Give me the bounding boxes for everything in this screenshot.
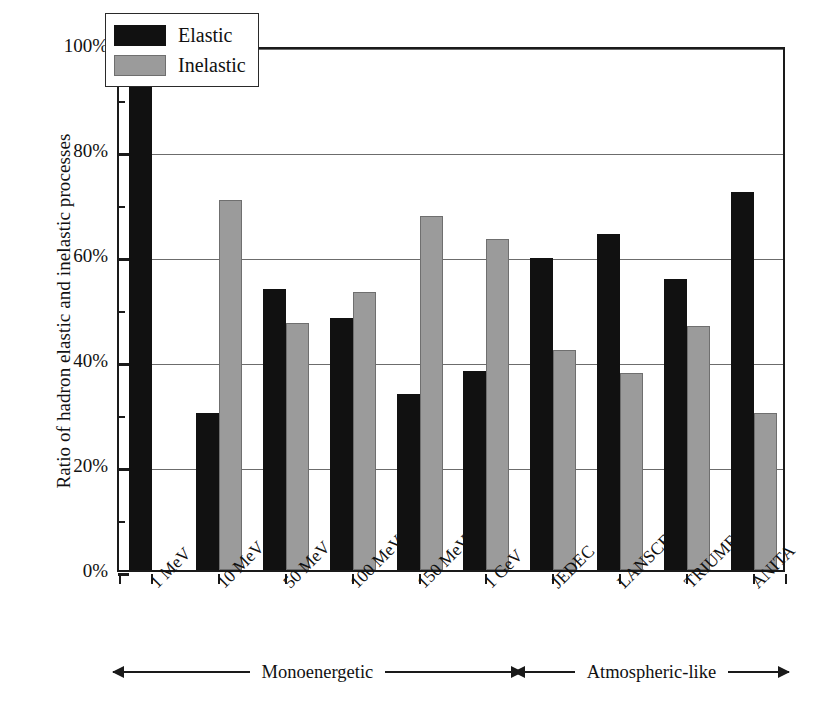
bar-inelastic-jedec xyxy=(553,350,576,571)
bar-elastic-10-mev xyxy=(196,413,219,571)
bar-inelastic-100-mev xyxy=(353,292,376,570)
bar-elastic-lansce xyxy=(597,234,620,570)
plot-area xyxy=(117,47,785,572)
y-axis-minor-tick xyxy=(118,416,125,418)
y-axis-tick-label: 100% xyxy=(30,35,108,57)
x-axis-tick xyxy=(785,574,787,584)
legend-label-inelastic: Inelastic xyxy=(178,55,246,75)
bar-inelastic-150-mev xyxy=(420,216,443,570)
x-axis-tick xyxy=(119,574,121,584)
bar-elastic-jedec xyxy=(530,258,553,570)
y-axis-tick xyxy=(118,468,129,471)
y-axis-tick xyxy=(118,153,129,156)
bar-elastic-1-mev xyxy=(129,45,152,570)
y-axis-minor-tick xyxy=(118,101,125,103)
arrow-left-icon xyxy=(113,671,250,673)
legend-item-elastic: Elastic xyxy=(114,20,246,50)
arrow-right-icon xyxy=(385,671,522,673)
bar-inelastic-1-gev xyxy=(486,239,509,570)
bar-elastic-triumf xyxy=(664,279,687,570)
group-annotation-label: Monoenergetic xyxy=(250,662,386,683)
group-annotation-label: Atmospheric-like xyxy=(575,662,728,683)
group-annotation-atmospheric-like: Atmospheric-like xyxy=(514,660,789,684)
y-axis-tick xyxy=(118,258,129,261)
y-axis-minor-tick xyxy=(118,521,125,523)
bar-inelastic-triumf xyxy=(687,326,710,570)
black-square-icon xyxy=(114,25,166,46)
bar-elastic-50-mev xyxy=(263,289,286,570)
plot-inner xyxy=(119,49,783,570)
y-axis-tick xyxy=(118,363,129,366)
bar-inelastic-lansce xyxy=(620,373,643,570)
chart-legend: Elastic Inelastic xyxy=(105,13,259,87)
legend-label-elastic: Elastic xyxy=(178,25,232,45)
arrow-left-icon xyxy=(514,671,575,673)
bar-elastic-100-mev xyxy=(330,318,353,570)
bar-inelastic-anita xyxy=(754,413,777,571)
legend-item-inelastic: Inelastic xyxy=(114,50,246,80)
arrow-right-icon xyxy=(728,671,789,673)
group-annotation-monoenergetic: Monoenergetic xyxy=(113,660,522,684)
gridline xyxy=(119,154,783,155)
y-axis-tick-label: 0% xyxy=(30,560,108,582)
y-axis-title: Ratio of hadron elastic and inelastic pr… xyxy=(53,51,75,571)
y-axis-tick-label: 40% xyxy=(30,350,108,372)
bar-chart-figure: Ratio of hadron elastic and inelastic pr… xyxy=(0,0,830,713)
y-axis-tick-label: 80% xyxy=(30,140,108,162)
y-axis-minor-tick xyxy=(118,311,125,313)
bar-inelastic-50-mev xyxy=(286,323,309,570)
y-axis-tick-label: 60% xyxy=(30,245,108,267)
y-axis-tick-label: 20% xyxy=(30,455,108,477)
gray-square-icon xyxy=(114,55,166,76)
bar-inelastic-10-mev xyxy=(219,200,242,570)
y-axis-minor-tick xyxy=(118,206,125,208)
bar-elastic-anita xyxy=(731,192,754,570)
